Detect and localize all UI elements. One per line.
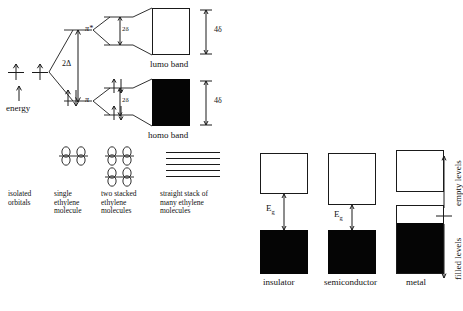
lumo-band-width-dimension [198,6,214,58]
semiconductor-conduction-band [328,153,376,205]
stack-line [166,158,220,159]
insulator-label: insulator [263,278,295,287]
insulator-gap-subscript: g [272,208,275,215]
homo-band-box [152,79,190,126]
homo-band-width-label: 4δ [214,97,222,105]
semiconductor-label: semiconductor [324,278,377,287]
caption-isolated-orbitals: isolated orbitals [8,190,52,207]
semiconductor-gap-arrow [346,203,358,232]
orbital-pictogram-single-ethylene [57,146,91,166]
column-insulator: Eg insulator [260,150,314,290]
metal-label: metal [406,278,426,287]
stack-line [166,152,220,153]
filled-levels-label: filled levels [453,238,463,280]
lumo-band-width-label: 4δ [214,26,222,34]
insulator-conduction-band [260,153,308,194]
levels-axis: empty levels filled levels [432,150,456,290]
left-panel: energy π* π [0,0,232,230]
stack-line [166,164,220,165]
semiconductor-valence-band [328,230,376,274]
caption-two-stacked-ethylene: two stacked ethylene molecules [101,190,157,216]
right-panel: Eg insulator Eg semiconductor [250,150,456,305]
orbital-pictogram-two-stacked-ethylene [103,146,137,188]
caption-many-ethylene: straight stack of many ethylene molecule… [160,190,230,216]
stack-line [166,176,220,177]
insulator-gap-label: Eg [266,204,275,215]
homo-band-width-dimension [198,77,214,129]
homo-band-label: homo band [148,131,188,140]
semiconductor-gap-label: Eg [334,210,343,221]
stack-line [166,170,220,171]
caption-single-ethylene: single ethylene molecule [54,190,102,216]
orbital-pictogram-many-stacked [166,152,220,182]
insulator-gap-arrow [278,192,290,232]
lumo-band-label: lumo band [150,60,188,69]
empty-levels-label: empty levels [453,160,463,206]
lumo-band-box [152,8,190,55]
semiconductor-gap-subscript: g [340,214,343,221]
column-semiconductor: Eg semiconductor [328,150,388,290]
insulator-valence-band [260,230,308,274]
